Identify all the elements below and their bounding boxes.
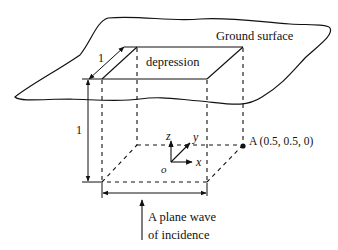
point-a-label: A (0.5, 0.5, 0) [249, 135, 313, 148]
depression-diagram: 1 1 z y x o A (0.5, 0.5, 0) Ground surfa… [0, 0, 338, 250]
ground-surface-label: Ground surface [216, 29, 294, 43]
depth-dimension [82, 47, 137, 79]
origin-label: o [161, 163, 167, 175]
depression-bottom-face [102, 145, 243, 182]
x-axis-label: x [195, 155, 202, 169]
point-a-marker [240, 143, 245, 148]
wave-label-line1: A plane wave [148, 210, 216, 224]
height-dimension [82, 80, 102, 182]
y-axis-label: y [192, 130, 199, 144]
width-dimension [102, 183, 207, 198]
depth-dim-label: 1 [98, 51, 104, 65]
coordinate-axes [171, 141, 192, 162]
depression-label: depression [146, 55, 200, 69]
z-axis-label: z [165, 129, 171, 143]
height-dim-label: 1 [76, 123, 82, 137]
wave-label-line2: of incidence [148, 228, 210, 242]
